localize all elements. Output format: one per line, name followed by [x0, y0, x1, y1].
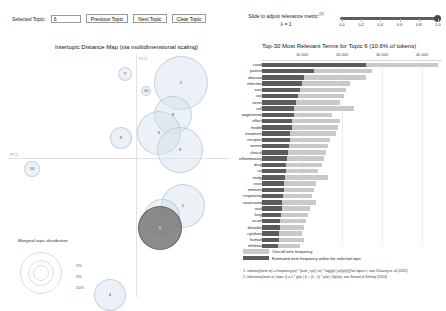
bar-topic-frequency: [262, 194, 283, 199]
term-row[interactable]: disorder: [232, 225, 444, 231]
term-label[interactable]: cytokine: [222, 231, 262, 237]
term-label[interactable]: viral: [222, 206, 262, 212]
term-row[interactable]: inhibitor: [232, 243, 444, 249]
legend-swatch-overall: [243, 249, 269, 253]
term-row[interactable]: infection: [232, 81, 444, 87]
term-row[interactable]: effect: [232, 118, 444, 124]
bar-topic-frequency: [262, 106, 294, 111]
term-row[interactable]: human: [232, 237, 444, 243]
term-label[interactable]: treatment: [222, 131, 262, 137]
term-label[interactable]: associated: [222, 200, 262, 206]
topic-controls: Selected Topic: Previous Topic Next Topi…: [12, 14, 206, 23]
previous-topic-button[interactable]: Previous Topic: [86, 14, 128, 23]
term-row[interactable]: patient: [232, 68, 444, 74]
top-terms-bar-chart[interactable]: 10,00020,00030,00040,000 covidpatientdis…: [232, 52, 444, 252]
bar-chart-x-tick-label: 20,000: [336, 52, 348, 57]
term-label[interactable]: sars: [222, 87, 262, 93]
topic-bubble-3[interactable]: 3: [157, 127, 203, 173]
footnote-relevance: 2. relevance(term w | topic t) = λ * p(w…: [243, 274, 443, 280]
term-row[interactable]: severe: [232, 143, 444, 149]
relevance-footnote-marker: (2): [319, 12, 323, 16]
bar-topic-frequency: [262, 138, 290, 143]
term-row[interactable]: virus: [232, 181, 444, 187]
term-row[interactable]: drug: [232, 162, 444, 168]
topic-bubble-6[interactable]: 6: [138, 206, 182, 250]
pc2-axis-label: PC2: [139, 56, 147, 61]
bar-topic-frequency: [262, 169, 286, 174]
bar-topic-frequency: [262, 94, 298, 99]
legend-label-topic: Estimated term frequency within the sele…: [272, 256, 361, 261]
term-row[interactable]: viral: [232, 206, 444, 212]
term-label[interactable]: effect: [222, 118, 262, 124]
clear-topic-button[interactable]: Clear Topic: [172, 14, 207, 23]
term-label[interactable]: rat: [222, 168, 262, 174]
term-label[interactable]: human: [222, 237, 262, 243]
term-row[interactable]: model: [232, 125, 444, 131]
bar-topic-frequency: [262, 131, 290, 136]
topic-bubble-10[interactable]: 10: [24, 161, 40, 177]
bar-chart-x-tick-label: 30,000: [376, 52, 388, 57]
term-label[interactable]: angiotensin: [222, 112, 262, 118]
term-label[interactable]: clinical: [222, 150, 262, 156]
topic-bubble-7[interactable]: 7: [118, 67, 132, 81]
term-row[interactable]: associated: [232, 200, 444, 206]
term-row[interactable]: cell: [232, 106, 444, 112]
bar-topic-frequency: [262, 244, 278, 249]
term-label[interactable]: disease: [222, 75, 262, 81]
topic-bubble-9[interactable]: 9: [110, 127, 132, 149]
term-row[interactable]: treatment: [232, 131, 444, 137]
term-row[interactable]: lung: [232, 212, 444, 218]
lambda-slider[interactable]: 0.00.20.40.60.81.0: [338, 14, 442, 36]
term-label[interactable]: respiratory: [222, 193, 262, 199]
term-row[interactable]: sars: [232, 87, 444, 93]
term-row[interactable]: cov: [232, 93, 444, 99]
term-label[interactable]: disorder: [222, 225, 262, 231]
selected-topic-input[interactable]: [51, 15, 81, 23]
term-row[interactable]: study: [232, 175, 444, 181]
term-label[interactable]: drug: [222, 162, 262, 168]
term-row[interactable]: inflammatory: [232, 156, 444, 162]
bar-topic-frequency: [262, 81, 302, 86]
lambda-tick-label: 0.6: [397, 22, 403, 27]
term-label[interactable]: severe: [222, 143, 262, 149]
term-label[interactable]: study: [222, 175, 262, 181]
bar-topic-frequency: [262, 150, 288, 155]
term-row[interactable]: disease: [232, 75, 444, 81]
term-label[interactable]: acute: [222, 218, 262, 224]
term-label[interactable]: receptor: [222, 137, 262, 143]
term-row[interactable]: clinical: [232, 150, 444, 156]
bar-topic-frequency: [262, 213, 281, 218]
term-row[interactable]: cytokine: [232, 231, 444, 237]
term-row[interactable]: acute: [232, 218, 444, 224]
term-row[interactable]: respiratory: [232, 193, 444, 199]
term-row[interactable]: angiotensin: [232, 112, 444, 118]
topic-bubble-10[interactable]: 10: [141, 86, 151, 96]
term-label[interactable]: virus: [222, 181, 262, 187]
term-label[interactable]: lung: [222, 212, 262, 218]
term-row[interactable]: receptor: [232, 137, 444, 143]
lambda-slider-track[interactable]: [340, 17, 438, 20]
bar-topic-frequency: [262, 156, 287, 161]
bar-topic-frequency: [262, 75, 304, 80]
term-label[interactable]: covid: [222, 62, 262, 68]
term-label[interactable]: immune: [222, 187, 262, 193]
term-label[interactable]: infection: [222, 81, 262, 87]
intertopic-map-title: Intertopic Distance Map (via multidimens…: [55, 44, 198, 50]
footnotes: 1. saliency(term w) = frequency(w) * [su…: [243, 268, 443, 280]
next-topic-button[interactable]: Next Topic: [133, 14, 166, 23]
topic-bubble-label: 7: [124, 72, 126, 76]
term-label[interactable]: inflammatory: [222, 156, 262, 162]
term-row[interactable]: sever: [232, 100, 444, 106]
pc1-axis-label: PC1: [10, 152, 18, 157]
term-label[interactable]: cell: [222, 106, 262, 112]
term-row[interactable]: immune: [232, 187, 444, 193]
term-label[interactable]: cov: [222, 93, 262, 99]
term-label[interactable]: model: [222, 125, 262, 131]
term-label[interactable]: sever: [222, 100, 262, 106]
term-row[interactable]: covid: [232, 62, 444, 68]
legend-item-overall: Overall term frequency: [243, 249, 312, 254]
term-label[interactable]: inhibitor: [222, 243, 262, 249]
term-label[interactable]: patient: [222, 68, 262, 74]
term-row[interactable]: rat: [232, 168, 444, 174]
